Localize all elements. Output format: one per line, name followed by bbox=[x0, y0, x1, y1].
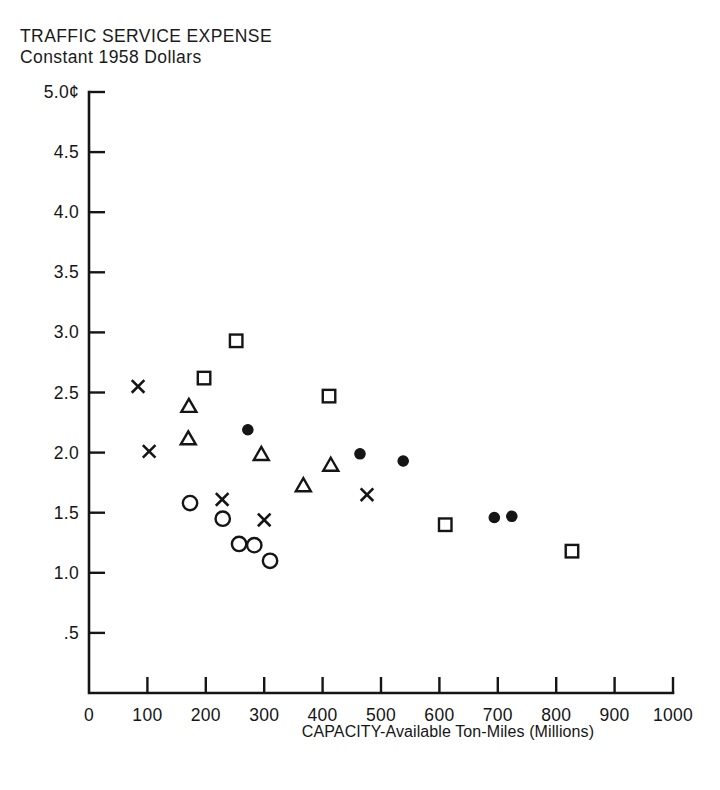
y-tick-label: 4.5 bbox=[54, 142, 79, 162]
x-tick-label: 700 bbox=[483, 705, 513, 725]
y-tick-label: 1.5 bbox=[54, 503, 79, 523]
marker-open-triangle bbox=[181, 399, 196, 412]
marker-cross bbox=[143, 445, 156, 458]
marker-filled-circle bbox=[243, 425, 253, 435]
y-tick-label: 5.0¢ bbox=[44, 82, 79, 102]
marker-cross bbox=[258, 514, 271, 527]
marker-open-circle bbox=[232, 537, 246, 551]
axis-lines bbox=[89, 92, 673, 693]
axes bbox=[89, 92, 673, 693]
y-tick-label: 3.5 bbox=[54, 262, 79, 282]
chart-figure: TRAFFIC SERVICE EXPENSE Constant 1958 Do… bbox=[0, 0, 720, 790]
marker-open-square bbox=[439, 518, 452, 531]
marker-open-circle bbox=[183, 496, 197, 510]
marker-filled-circle bbox=[507, 511, 517, 521]
x-tick-label: 800 bbox=[541, 705, 571, 725]
y-tick-label: 2.5 bbox=[54, 383, 79, 403]
marker-filled-circle bbox=[489, 512, 499, 522]
y-tick-label: .5 bbox=[64, 623, 79, 643]
marker-cross bbox=[216, 493, 229, 506]
marker-open-triangle bbox=[323, 458, 338, 471]
y-tick-label: 4.0 bbox=[54, 202, 79, 222]
x-axis-tick-labels: 01002003004005006007008009001000 bbox=[84, 705, 693, 725]
marker-cross bbox=[361, 488, 374, 501]
marker-open-triangle bbox=[254, 447, 269, 460]
marker-open-circle bbox=[263, 554, 277, 568]
y-tick-label: 2.0 bbox=[54, 443, 79, 463]
x-axis-title: CAPACITY-Available Ton-Miles (Millions) bbox=[302, 723, 594, 740]
y-axis-tick-labels: 5.0¢4.54.03.53.02.52.01.51.0.5 bbox=[44, 82, 79, 643]
marker-cross bbox=[132, 380, 145, 393]
y-tick-label: 3.0 bbox=[54, 322, 79, 342]
marker-open-circle bbox=[247, 538, 261, 552]
marker-open-square bbox=[566, 545, 579, 558]
x-tick-label: 0 bbox=[84, 705, 94, 725]
marker-filled-circle bbox=[355, 449, 365, 459]
marker-open-square bbox=[230, 335, 243, 348]
marker-open-triangle bbox=[181, 431, 196, 444]
x-tick-label: 300 bbox=[249, 705, 279, 725]
x-tick-label: 1000 bbox=[653, 705, 693, 725]
x-tick-label: 900 bbox=[600, 705, 630, 725]
y-tick-label: 1.0 bbox=[54, 563, 79, 583]
marker-open-circle bbox=[216, 512, 230, 526]
axis-ticks bbox=[89, 92, 673, 693]
marker-open-square bbox=[198, 372, 211, 385]
data-markers bbox=[132, 335, 578, 568]
x-tick-label: 200 bbox=[191, 705, 221, 725]
x-tick-label: 600 bbox=[424, 705, 454, 725]
x-tick-label: 400 bbox=[308, 705, 338, 725]
x-tick-label: 100 bbox=[132, 705, 162, 725]
marker-filled-circle bbox=[398, 456, 408, 466]
marker-open-square bbox=[323, 390, 336, 403]
scatter-plot: 5.0¢4.54.03.53.02.52.01.51.0.5 010020030… bbox=[0, 0, 720, 790]
marker-open-triangle bbox=[296, 478, 311, 491]
x-tick-label: 500 bbox=[366, 705, 396, 725]
